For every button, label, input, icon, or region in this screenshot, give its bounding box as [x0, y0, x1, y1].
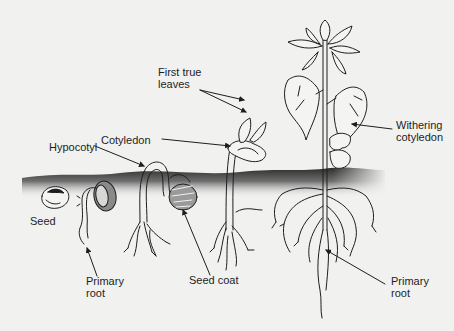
- label-cotyledon: Cotyledon: [101, 134, 151, 146]
- label-primary-root-left: Primary root: [86, 275, 124, 299]
- label-hypocotyl: Hypocotyl: [49, 141, 97, 153]
- soil-surface: [22, 165, 387, 200]
- label-withering-cotyledon: Withering cotyledon: [396, 119, 443, 143]
- label-seed: Seed: [30, 215, 56, 227]
- label-primary-root-right: Primary root: [391, 275, 429, 299]
- label-first-true-leaves: First true leaves: [158, 66, 201, 90]
- seed-illustration: [42, 187, 69, 209]
- label-seed-coat: Seed coat: [189, 274, 239, 286]
